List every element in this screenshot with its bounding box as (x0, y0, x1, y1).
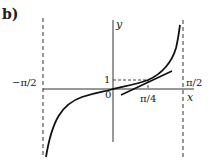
tangent-line (121, 71, 172, 95)
tick-y-label: 1 (104, 74, 110, 85)
x-axis-label: x (187, 91, 194, 104)
y-axis-label: y (115, 18, 123, 31)
tick-x-label: π/4 (140, 93, 156, 104)
tan-graph-diagram: b) y x 0 1 π/4 −π/2 π/2 (0, 0, 213, 166)
panel-label: b) (2, 6, 18, 22)
right-asymptote-label: π/2 (186, 77, 202, 88)
origin-label: 0 (105, 89, 111, 100)
left-asymptote-label: −π/2 (12, 77, 37, 88)
